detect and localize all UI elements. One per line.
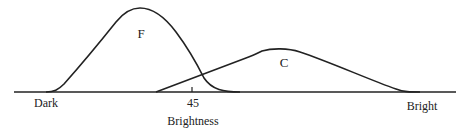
curve-f xyxy=(46,8,240,92)
curve-c-label: C xyxy=(280,55,289,70)
curve-f-label: F xyxy=(137,26,144,41)
axis-title: Brightness xyxy=(167,114,219,128)
bright-label: Bright xyxy=(407,99,438,113)
tick-label-45: 45 xyxy=(187,96,199,110)
dark-label: Dark xyxy=(34,96,58,110)
brightness-distribution-diagram: F C Dark 45 Bright Brightness xyxy=(0,0,465,138)
